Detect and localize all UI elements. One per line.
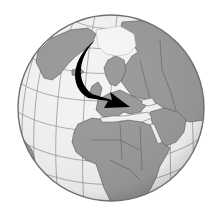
globe-shading xyxy=(18,15,204,201)
globe-illustration xyxy=(0,0,223,224)
